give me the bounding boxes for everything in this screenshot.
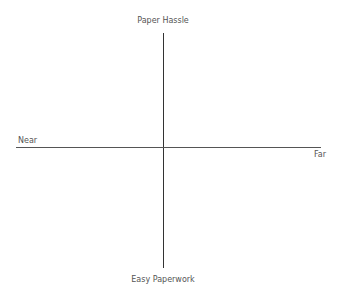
axis-label-left: Near <box>18 136 37 145</box>
axis-label-top: Paper Hassle <box>0 16 326 25</box>
axis-label-bottom: Easy Paperwork <box>0 275 326 284</box>
horizontal-axis-line <box>16 147 321 148</box>
axis-label-right: Far <box>314 150 326 159</box>
vertical-axis-line <box>163 33 164 268</box>
